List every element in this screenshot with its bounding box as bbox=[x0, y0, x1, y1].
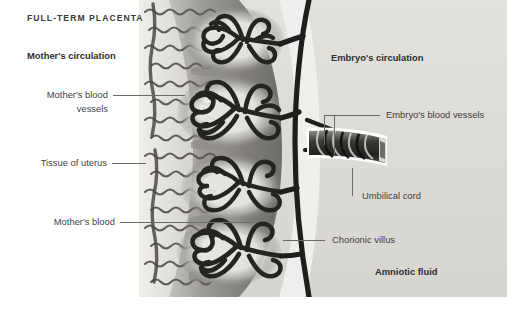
placenta-illustration bbox=[139, 0, 507, 297]
leader-tissue-of-uterus bbox=[112, 163, 146, 164]
heading-mothers-circulation: Mother's circulation bbox=[27, 50, 116, 62]
label-mothers-blood: Mother's blood bbox=[0, 216, 115, 228]
leader-embryos-blood-vessels-drop-a bbox=[324, 115, 325, 145]
leader-chorionic-villus bbox=[283, 240, 325, 241]
label-mothers-blood-vessels-line1: Mother's blood bbox=[0, 89, 108, 101]
leader-embryos-blood-vessels bbox=[324, 115, 380, 116]
leader-mothers-blood bbox=[120, 222, 252, 223]
villus-tree bbox=[177, 76, 282, 148]
label-embryos-blood-vessels: Embryo's blood vessels bbox=[386, 109, 484, 121]
leader-umbilical-cord bbox=[352, 168, 353, 196]
label-mothers-blood-vessels-line2: vessels bbox=[0, 103, 108, 115]
label-chorionic-villus: Chorionic villus bbox=[332, 234, 395, 246]
heading-amniotic-fluid: Amniotic fluid bbox=[375, 266, 438, 278]
label-umbilical-cord: Umbilical cord bbox=[362, 190, 421, 202]
figure-title: FULL-TERM PLACENTA bbox=[27, 13, 144, 24]
leader-mothers-blood-vessels bbox=[113, 95, 185, 96]
placenta-diagram-figure: FULL-TERM PLACENTA Mother's circulation … bbox=[0, 0, 507, 312]
villus-tree bbox=[184, 7, 284, 73]
label-tissue-of-uterus: Tissue of uterus bbox=[0, 157, 107, 169]
leader-embryos-blood-vessels-drop-b bbox=[334, 115, 335, 155]
heading-embryos-circulation: Embryo's circulation bbox=[331, 52, 423, 64]
